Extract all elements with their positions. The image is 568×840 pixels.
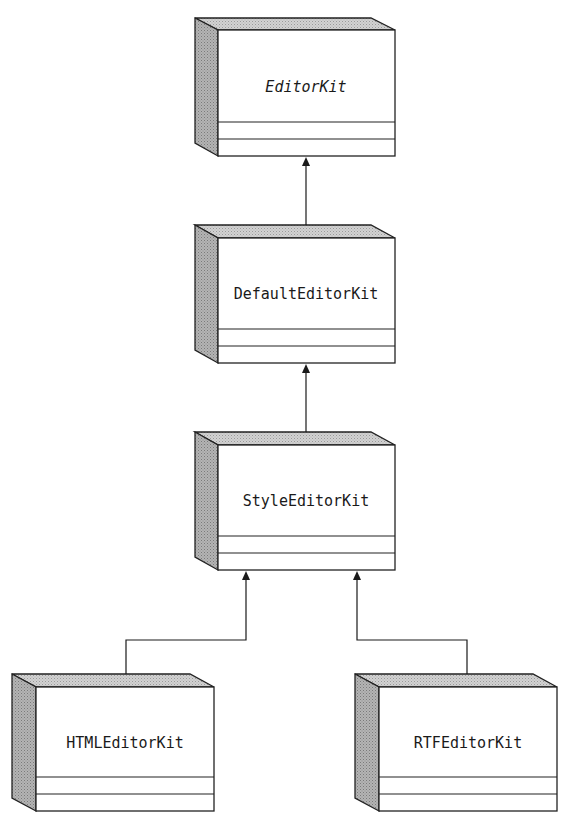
class-name-defaulteditorkit: DefaultEditorKit (234, 285, 379, 303)
class-name-editorkit: EditorKit (265, 78, 346, 96)
edge-htmleditorkit-to-styleeditorkit (126, 571, 250, 674)
edge-line (126, 578, 246, 674)
class-box-styleeditorkit[interactable]: StyleEditorKit (195, 432, 395, 570)
arrowhead-icon (302, 157, 310, 166)
box-top-face (12, 674, 214, 687)
edge-styleeditorkit-to-defaulteditorkit (302, 364, 310, 432)
box-top-face (195, 18, 395, 30)
box-side-face (355, 674, 379, 811)
class-name-rtfeditorkit: RTFEditorKit (414, 734, 522, 752)
arrowhead-icon (302, 364, 310, 373)
class-box-editorkit[interactable]: EditorKit (195, 18, 395, 156)
class-diagram: EditorKit DefaultEditorKit StyleEditorKi… (0, 0, 568, 840)
box-top-face (195, 225, 395, 238)
arrowhead-icon (353, 571, 361, 580)
class-box-rtfeditorkit[interactable]: RTFEditorKit (355, 674, 557, 811)
class-box-htmleditorkit[interactable]: HTMLEditorKit (12, 674, 214, 811)
box-side-face (12, 674, 36, 811)
box-side-face (195, 225, 218, 363)
edge-defaulteditorkit-to-editorkit (302, 157, 310, 225)
class-name-htmleditorkit: HTMLEditorKit (66, 734, 183, 752)
arrowhead-icon (242, 571, 250, 580)
edge-line (357, 578, 467, 674)
box-top-face (355, 674, 557, 687)
box-side-face (195, 18, 218, 156)
class-box-defaulteditorkit[interactable]: DefaultEditorKit (195, 225, 395, 363)
box-side-face (195, 432, 218, 570)
edge-rtfeditorkit-to-styleeditorkit (353, 571, 467, 674)
class-name-styleeditorkit: StyleEditorKit (243, 492, 369, 510)
box-top-face (195, 432, 395, 445)
